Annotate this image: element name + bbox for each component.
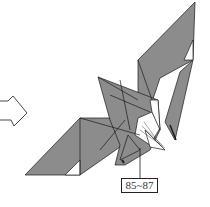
step-number-label: 85~87: [121, 178, 158, 193]
origami-bird: [25, 2, 195, 175]
hollow-right-arrow-icon: [0, 96, 27, 126]
origami-diagram: [0, 0, 210, 207]
